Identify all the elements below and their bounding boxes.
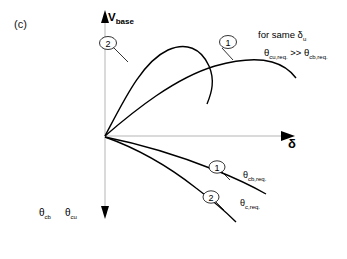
y-axis-arrow-down-icon — [101, 206, 109, 219]
leader-line-badge1-upper — [222, 48, 233, 60]
leader-line-badge2-lower — [216, 202, 224, 210]
axis-bottom-left-subscript: cb — [45, 214, 51, 220]
note-line-1: for same δu — [258, 29, 306, 40]
leader-line-badge2-upper — [113, 47, 128, 62]
y-axis-label-symbol: V — [108, 11, 116, 23]
note-line-2-left-subscript: cu,req. — [269, 54, 287, 60]
note-line-2-right-subscript: cb,req. — [309, 54, 327, 60]
x-axis-label: δ — [288, 136, 296, 151]
label-curve-2-subscript: c,req. — [245, 204, 260, 210]
badge-2-lower-label: 2 — [208, 193, 213, 203]
note-line-2: θcu,req. >> θcb,req. — [258, 46, 328, 64]
curve-upper-1 — [105, 60, 296, 136]
note-annotation: for same δu θcu,req. >> θcb,req. — [258, 28, 328, 64]
note-line-1-text: for same δ — [258, 29, 303, 40]
label-curve-1-subscript: cb,req. — [248, 176, 266, 182]
note-line-1-subscript: u — [303, 36, 306, 42]
note-line-2-relation: >> — [290, 47, 301, 58]
badge-2-upper-label: 2 — [105, 39, 110, 49]
label-lower-curve-2: θc,req. — [240, 198, 260, 210]
y-axis-label: Vbase — [108, 11, 134, 26]
axis-bottom-right-subscript: cu — [70, 214, 76, 220]
badge-1-upper-label: 1 — [225, 38, 230, 48]
y-axis-label-subscript: base — [116, 17, 134, 26]
panel-label: (c) — [14, 18, 27, 30]
curve-lower-1 — [105, 137, 266, 194]
badge-1-lower-label: 1 — [214, 163, 219, 173]
axis-bottom-theta-labels: θcbθcu — [39, 207, 77, 220]
curve-lower-2 — [105, 137, 236, 222]
label-upper-lower-curve-1: θcb,req. — [243, 170, 266, 182]
